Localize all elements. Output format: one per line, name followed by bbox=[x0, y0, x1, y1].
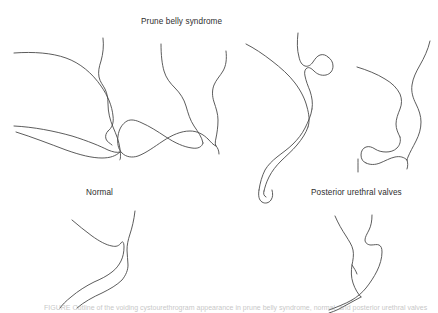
panel-pbs-1 bbox=[14, 38, 121, 160]
bladder-dome-outline-pbs3 bbox=[246, 44, 309, 127]
urethra-anterior-wall-pbs3 bbox=[264, 127, 308, 191]
urethra-right-wall-pbs4 bbox=[407, 41, 430, 160]
panel-normal bbox=[60, 211, 135, 308]
urethra-anterior-wall-normal bbox=[77, 211, 135, 308]
bladder-lower-contour-pbs1 bbox=[16, 132, 120, 158]
bladder-left-wall-pbs2 bbox=[161, 44, 203, 143]
bladder-neck-funnel-pbs4 bbox=[361, 137, 400, 163]
figure-canvas bbox=[0, 0, 438, 313]
group-label-posterior-urethral-valves: Posterior urethral valves bbox=[311, 188, 402, 198]
bladder-base-outline-pbs1 bbox=[14, 126, 120, 152]
urethra-lower-wall-pbs4 bbox=[366, 157, 407, 165]
bladder-dome-outline-pbs1 bbox=[14, 52, 113, 131]
urachal-diverticulum-pbs3 bbox=[297, 33, 328, 66]
valve-narrowing-puv bbox=[352, 265, 357, 274]
bladder-base-outline-normal bbox=[72, 220, 121, 246]
bladder-dome-right-pbs3 bbox=[305, 57, 333, 109]
bladder-neck-junction-pbs1 bbox=[106, 131, 112, 145]
group-label-normal: Normal bbox=[86, 188, 113, 198]
panel-pbs-4 bbox=[357, 41, 430, 172]
group-title-prune-belly-syndrome: Prune belly syndrome bbox=[141, 17, 222, 27]
urethra-distal-tip-pbs2 bbox=[216, 146, 219, 154]
figure-caption-clipped: FIGURE Outline of the voiding cystoureth… bbox=[44, 305, 427, 312]
panel-pbs-2 bbox=[118, 44, 227, 157]
urethra-posterior-wall-pbs3 bbox=[259, 109, 312, 190]
urethra-distal-return-pbs3 bbox=[264, 191, 266, 197]
urethra-distal-tip-pbs4 bbox=[407, 160, 408, 169]
bladder-right-wall-pbs2 bbox=[213, 51, 227, 146]
line-drawing-group bbox=[0, 0, 438, 313]
urethra-right-wall-puv bbox=[352, 215, 382, 300]
panel-puv bbox=[329, 215, 382, 313]
figure-caption-strip: FIGURE Outline of the voiding cystoureth… bbox=[0, 305, 438, 313]
urethra-lower-wall-pbs2 bbox=[118, 120, 208, 157]
panel-pbs-3 bbox=[246, 33, 333, 203]
bladder-base-outline-pbs4 bbox=[357, 67, 402, 137]
bladder-base-outline-puv bbox=[335, 216, 361, 297]
